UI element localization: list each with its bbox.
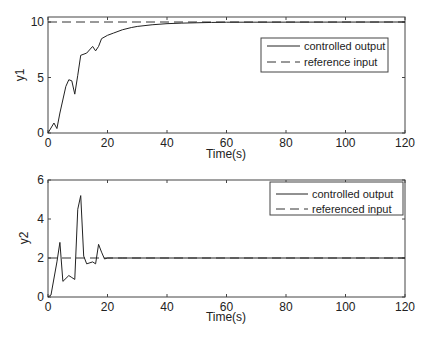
x-tick-label: 80	[279, 136, 293, 150]
x-tick-label: 20	[101, 136, 115, 150]
top-x-axis-label: Time(s)	[206, 147, 246, 161]
x-tick-label: 100	[335, 300, 355, 314]
y-tick-label: 4	[37, 212, 44, 226]
bottom-legend: controlled output referenced input	[270, 182, 403, 215]
top-legend: controlled output reference input	[261, 38, 388, 72]
top-y-ticks: 0510	[31, 15, 405, 140]
y-tick-label: 6	[37, 173, 44, 187]
x-tick-label: 80	[279, 300, 293, 314]
x-tick-label: 120	[395, 300, 415, 314]
bottom-y-axis-label: y2	[17, 231, 31, 244]
top-legend-label-output: controlled output	[304, 40, 385, 52]
x-tick-label: 20	[101, 300, 115, 314]
y-tick-label: 10	[31, 15, 45, 29]
bottom-legend-label-output: controlled output	[312, 188, 393, 200]
x-tick-label: 0	[45, 136, 52, 150]
bottom-legend-label-reference: referenced input	[312, 203, 392, 215]
bottom-plot: 020406080100120 0246 y2 Time(s) controll…	[17, 173, 415, 324]
top-plot-frame	[48, 17, 405, 133]
x-tick-label: 40	[160, 136, 174, 150]
y-tick-label: 0	[37, 290, 44, 304]
y-tick-label: 5	[37, 71, 44, 85]
x-tick-label: 100	[335, 136, 355, 150]
top-plot: 020406080100120 0510 y1 Time(s) controll…	[13, 15, 415, 161]
x-tick-label: 120	[395, 136, 415, 150]
x-tick-label: 40	[160, 300, 174, 314]
top-x-ticks: 020406080100120	[45, 17, 416, 150]
y-tick-label: 2	[37, 251, 44, 265]
bottom-x-axis-label: Time(s)	[206, 310, 246, 324]
figure: 020406080100120 0510 y1 Time(s) controll…	[0, 0, 427, 339]
y-tick-label: 0	[37, 126, 44, 140]
top-legend-label-reference: reference input	[304, 56, 377, 68]
x-tick-label: 0	[45, 300, 52, 314]
top-y-axis-label: y1	[13, 68, 27, 81]
